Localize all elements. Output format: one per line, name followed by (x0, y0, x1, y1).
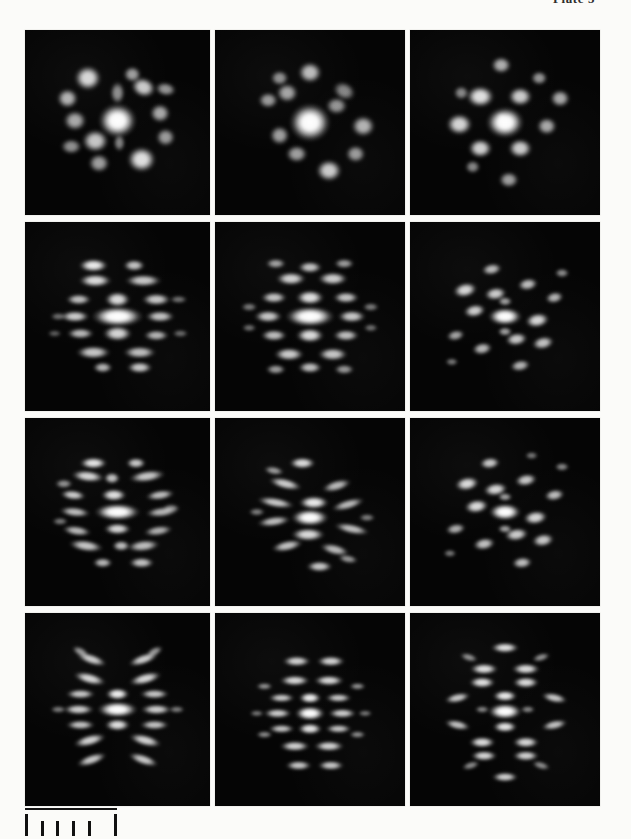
diffraction-panel-r3c1 (25, 418, 210, 606)
diffraction-panel-r3c2 (215, 418, 405, 606)
diffraction-plate-grid (25, 30, 607, 806)
diffraction-pattern-arc-streak-pattern (215, 418, 405, 606)
diffraction-pattern-dense-reciprocal-lattice (215, 222, 405, 411)
diffraction-panel-r4c3 (410, 613, 600, 806)
diffraction-pattern-vertical-stack-lattice (410, 613, 600, 806)
diffraction-pattern-ellipse-fringe-pattern (215, 613, 405, 806)
plate-label: Plate 5 (553, 0, 595, 7)
scale-bar-rule (25, 808, 117, 810)
diffraction-panel-r1c3 (410, 30, 600, 215)
diffraction-panel-r1c1 (25, 30, 210, 215)
diffraction-panel-r2c3 (410, 222, 600, 411)
diffraction-panel-r2c2 (215, 222, 405, 411)
scale-bar-tick-5 (114, 814, 117, 836)
scale-bar (25, 812, 117, 836)
scale-bar-tick-0 (25, 814, 28, 836)
diffraction-pattern-oblique-spot-array (410, 418, 600, 606)
scale-bar-tick-3 (72, 821, 75, 836)
diffraction-pattern-tilted-reciprocal-lattice (410, 222, 600, 411)
diffraction-panel-r4c1 (25, 613, 210, 806)
diffraction-pattern-symmetric-butterfly-pattern (25, 613, 210, 806)
diffraction-pattern-row-of-elongated-reflections (25, 222, 210, 411)
diffraction-pattern-square-lattice-spots (410, 30, 600, 215)
diffraction-pattern-bright-centre-with-ring (215, 30, 405, 215)
scale-bar-tick-4 (88, 821, 91, 836)
diffraction-panel-r1c2 (215, 30, 405, 215)
scale-bar-tick-1 (41, 821, 44, 836)
scale-bar-tick-2 (56, 821, 59, 836)
diffraction-panel-r4c2 (215, 613, 405, 806)
diffraction-panel-r2c1 (25, 222, 210, 411)
diffraction-panel-r3c3 (410, 418, 600, 606)
diffraction-pattern-streaked-lattice-left (25, 418, 210, 606)
diffraction-pattern-few-spot-cluster (25, 30, 210, 215)
